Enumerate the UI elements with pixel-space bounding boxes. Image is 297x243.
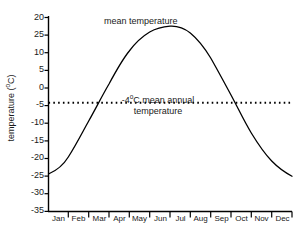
x-tick-label: Jun <box>150 214 171 223</box>
annotation-line2: temperature <box>134 106 183 116</box>
x-tick-label: Oct <box>231 214 252 223</box>
temperature-chart: temperature (oC) 20 25 10 5 0 -5 -10 -15… <box>0 0 297 243</box>
annotation-mean-annual-temperature: -4oC mean annual temperature <box>96 95 220 117</box>
annotation-mean-temperature: mean temperature <box>104 16 178 27</box>
x-tick-label: Mar <box>89 214 110 223</box>
x-tick-label: Nov <box>251 214 272 223</box>
x-tick-label: Jul <box>170 214 191 223</box>
plot-area <box>0 0 297 243</box>
x-tick-label: May <box>129 214 150 223</box>
x-tick-label: Dec <box>272 214 293 223</box>
x-tick-label: Sep <box>211 214 232 223</box>
x-tick-label: Jan <box>48 214 69 223</box>
x-tick-label: Feb <box>68 214 89 223</box>
x-tick-label: Aug <box>190 214 211 223</box>
annotation-value-pre: -4 <box>122 95 130 105</box>
x-tick-label: Apr <box>109 214 130 223</box>
annotation-value-post: C mean annual <box>133 95 194 105</box>
